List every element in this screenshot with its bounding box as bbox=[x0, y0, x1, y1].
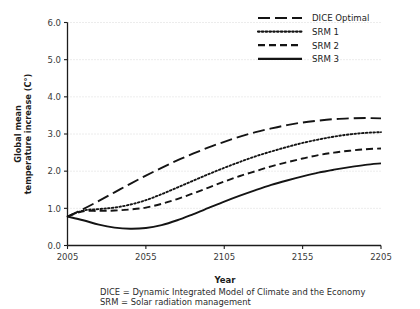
x-axis-title: Year bbox=[213, 275, 236, 285]
x-tick-label: 2055 bbox=[135, 252, 157, 262]
y-tick-label: 3.0 bbox=[47, 129, 61, 139]
y-tick-label: 2.0 bbox=[47, 166, 61, 176]
line-chart: 0.01.02.03.04.05.06.0 200520552105215522… bbox=[0, 0, 420, 309]
chart-figure: 0.01.02.03.04.05.06.0 200520552105215522… bbox=[0, 0, 420, 309]
data-series-group bbox=[68, 118, 382, 229]
x-tick-label: 2105 bbox=[213, 252, 235, 262]
y-tick-label: 4.0 bbox=[47, 92, 61, 102]
legend-label-dice-optimal: DICE Optimal bbox=[312, 13, 369, 23]
x-tick-labels: 20052055210521552205 bbox=[57, 252, 392, 262]
y-axis-title: Global meantemperature increase (C°) bbox=[13, 73, 32, 194]
y-tick-label: 0.0 bbox=[47, 241, 61, 251]
series-line-srm-2 bbox=[68, 149, 382, 217]
series-line-srm-1 bbox=[68, 132, 382, 216]
footnote-srm: SRM = Solar radiation management bbox=[100, 297, 252, 307]
series-line-srm-3 bbox=[68, 163, 382, 228]
y-tick-labels: 0.01.02.03.04.05.06.0 bbox=[47, 18, 61, 251]
x-tick-label: 2205 bbox=[370, 252, 392, 262]
footnote-dice: DICE = Dynamic Integrated Model of Clima… bbox=[100, 287, 365, 297]
y-tick-label: 6.0 bbox=[47, 18, 61, 28]
y-tick-label: 5.0 bbox=[47, 55, 61, 65]
x-tick-label: 2005 bbox=[57, 252, 79, 262]
legend-label-srm-3: SRM 3 bbox=[312, 54, 339, 64]
chart-legend: DICE OptimalSRM 1SRM 2SRM 3 bbox=[258, 13, 369, 64]
y-tick-label: 1.0 bbox=[47, 204, 61, 214]
legend-label-srm-1: SRM 1 bbox=[312, 27, 339, 37]
x-tick-label: 2155 bbox=[292, 252, 314, 262]
legend-label-srm-2: SRM 2 bbox=[312, 41, 339, 51]
